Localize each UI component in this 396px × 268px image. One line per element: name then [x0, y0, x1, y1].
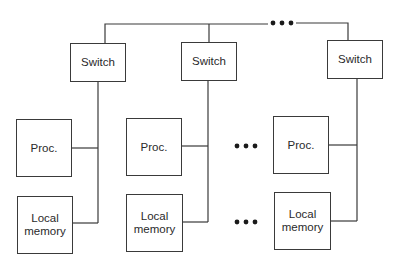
processor-label: Proc.: [288, 139, 315, 152]
ellipsis-dot: [289, 21, 294, 26]
local-memory-label: Local memory: [282, 208, 324, 234]
processor-label: Proc.: [31, 142, 58, 155]
ellipsis-dot: [253, 144, 258, 149]
ellipsis-dot: [235, 220, 240, 225]
switch-label: Switch: [338, 53, 372, 66]
local-memory-box-3: Local memory: [274, 192, 331, 250]
ellipsis-dot: [244, 220, 249, 225]
local-memory-box-1: Local memory: [17, 196, 73, 254]
bus-line-left: [105, 24, 268, 43]
ellipsis-dot: [244, 144, 249, 149]
local-memory-label: Local memory: [24, 212, 66, 238]
ellipsis-dot: [271, 21, 276, 26]
local-memory-label: Local memory: [134, 210, 176, 236]
local-memory-box-2: Local memory: [126, 194, 183, 252]
ellipsis-dot: [235, 144, 240, 149]
processor-label: Proc.: [141, 141, 168, 154]
switch-box-3: Switch: [327, 40, 383, 79]
switch-label: Switch: [81, 56, 115, 69]
switch-label: Switch: [192, 55, 226, 68]
ellipsis-dot: [253, 220, 258, 225]
bus-line-right: [296, 23, 348, 40]
switch-box-2: Switch: [181, 42, 237, 81]
ellipsis-dot: [280, 21, 285, 26]
processor-box-1: Proc.: [16, 119, 72, 177]
switch-box-1: Switch: [70, 43, 126, 82]
processor-box-2: Proc.: [126, 118, 182, 176]
processor-box-3: Proc.: [273, 116, 329, 174]
